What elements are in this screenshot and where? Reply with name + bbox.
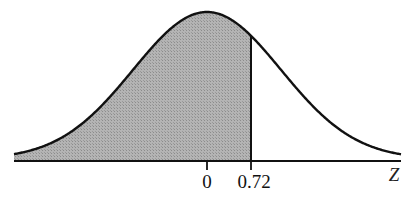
tick-label-zero: 0 <box>202 171 212 192</box>
axis-label-z: Z <box>389 164 400 185</box>
normal-curve-diagram: 0 0.72 Z <box>0 0 411 206</box>
tick-label-072: 0.72 <box>237 171 270 192</box>
shaded-area <box>14 12 251 161</box>
